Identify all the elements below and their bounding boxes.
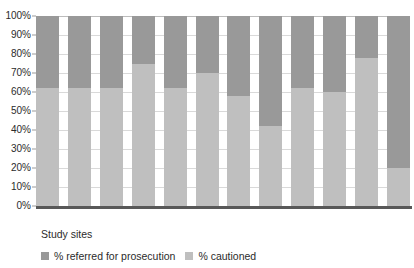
legend-label: % referred for prosecution	[54, 251, 175, 262]
legend-item[interactable]: % referred for prosecution	[41, 251, 175, 262]
bar-segment-referred-for-prosecution[interactable]	[227, 16, 250, 96]
bar-column[interactable]	[132, 16, 155, 206]
bar-column[interactable]	[355, 16, 378, 206]
stacked-bar-chart: 100%90%80%70%60%50%40%30%20%10%0% Study …	[0, 0, 414, 268]
bar-segment-referred-for-prosecution[interactable]	[36, 16, 59, 88]
x-axis-line	[36, 206, 412, 209]
bar-segment-cautioned[interactable]	[164, 88, 187, 206]
legend-item[interactable]: % cautioned	[185, 251, 256, 262]
bar-column[interactable]	[323, 16, 346, 206]
y-axis-tick-label: 30%	[11, 144, 31, 154]
y-axis-tick-label: 0%	[17, 201, 31, 211]
legend-swatch-icon	[185, 252, 193, 260]
y-axis-tick-label: 90%	[11, 30, 31, 40]
bar-segment-cautioned[interactable]	[132, 64, 155, 207]
bar-column[interactable]	[387, 16, 410, 206]
bar-column[interactable]	[291, 16, 314, 206]
bars-layer	[36, 16, 410, 206]
bar-segment-referred-for-prosecution[interactable]	[196, 16, 219, 73]
bar-segment-referred-for-prosecution[interactable]	[132, 16, 155, 64]
chart-legend: % referred for prosecution% cautioned	[41, 251, 256, 262]
bar-segment-referred-for-prosecution[interactable]	[259, 16, 282, 126]
bar-segment-cautioned[interactable]	[68, 88, 91, 206]
bar-segment-referred-for-prosecution[interactable]	[355, 16, 378, 58]
bar-column[interactable]	[36, 16, 59, 206]
y-axis-tick-label: 60%	[11, 87, 31, 97]
y-axis-tick-label: 10%	[11, 182, 31, 192]
bar-segment-referred-for-prosecution[interactable]	[291, 16, 314, 88]
legend-swatch-icon	[41, 252, 49, 260]
bar-segment-cautioned[interactable]	[100, 88, 123, 206]
bar-segment-cautioned[interactable]	[355, 58, 378, 206]
bar-column[interactable]	[227, 16, 250, 206]
y-axis-tick-label: 100%	[5, 11, 31, 21]
legend-label: % cautioned	[198, 251, 256, 262]
bar-segment-referred-for-prosecution[interactable]	[100, 16, 123, 88]
bar-column[interactable]	[196, 16, 219, 206]
bar-segment-cautioned[interactable]	[291, 88, 314, 206]
plot-area: 100%90%80%70%60%50%40%30%20%10%0%	[36, 16, 410, 206]
bar-segment-referred-for-prosecution[interactable]	[164, 16, 187, 88]
y-axis-tick-label: 20%	[11, 163, 31, 173]
bar-column[interactable]	[259, 16, 282, 206]
bar-column[interactable]	[164, 16, 187, 206]
bar-column[interactable]	[68, 16, 91, 206]
bar-segment-cautioned[interactable]	[36, 88, 59, 206]
bar-segment-cautioned[interactable]	[323, 92, 346, 206]
bar-segment-referred-for-prosecution[interactable]	[323, 16, 346, 92]
bar-segment-cautioned[interactable]	[227, 96, 250, 206]
bar-segment-referred-for-prosecution[interactable]	[387, 16, 410, 168]
bar-segment-cautioned[interactable]	[387, 168, 410, 206]
x-axis-label: Study sites	[41, 228, 92, 240]
y-axis-tick-label: 50%	[11, 106, 31, 116]
bar-segment-referred-for-prosecution[interactable]	[68, 16, 91, 88]
y-axis-tick-label: 70%	[11, 68, 31, 78]
bar-segment-cautioned[interactable]	[196, 73, 219, 206]
y-axis-tick-label: 80%	[11, 49, 31, 59]
bar-column[interactable]	[100, 16, 123, 206]
y-axis-tick-label: 40%	[11, 125, 31, 135]
bar-segment-cautioned[interactable]	[259, 126, 282, 206]
